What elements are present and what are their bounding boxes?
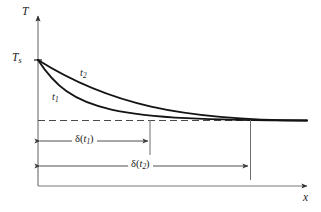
delta-t1-close-paren: ) [90,133,94,144]
curve-label-t2: t2 [80,68,87,79]
curve-label-t1-subscript: 1 [55,95,59,104]
dimension-label-delta-t2: δ(t2) [128,159,153,170]
y-axis-label: T [22,6,28,18]
x-axis-label: x [303,192,308,204]
dimension-label-delta-t1: δ(t1) [72,134,97,145]
surface-temperature-subscript: s [18,56,21,65]
figure-canvas [0,0,321,212]
curve-t2 [38,60,307,121]
thermal-boundary-layer-figure: T x Ts t1 t2 δ(t1) δ(t2) [0,0,321,212]
delta-t2-close-paren: ) [146,158,150,169]
surface-temperature-label: Ts [12,52,22,65]
curve-label-t1: t1 [52,92,59,103]
curve-label-t2-subscript: 2 [83,71,87,80]
